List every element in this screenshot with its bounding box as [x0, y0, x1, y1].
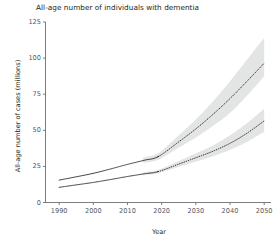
y-tick-label: 75 — [15, 90, 41, 98]
x-tick-label: 1990 — [42, 207, 76, 215]
x-tick-label: 2050 — [247, 207, 273, 215]
y-tick-label: 125 — [15, 18, 41, 26]
x-tick-label: 2000 — [76, 207, 110, 215]
chart-figure: All-age number of individuals with demen… — [0, 0, 273, 241]
y-tick-label: 50 — [15, 126, 41, 134]
x-tick-label: 2010 — [111, 207, 145, 215]
y-tick-label: 100 — [15, 54, 41, 62]
x-tick-label: 2030 — [179, 207, 213, 215]
y-tick-label: 25 — [15, 162, 41, 170]
y-tick-label: 0 — [15, 199, 41, 207]
x-tick-label: 2040 — [213, 207, 247, 215]
axes — [43, 22, 271, 205]
observed-line — [59, 172, 158, 188]
uncertainty-band — [143, 38, 265, 163]
x-tick-label: 2020 — [145, 207, 179, 215]
